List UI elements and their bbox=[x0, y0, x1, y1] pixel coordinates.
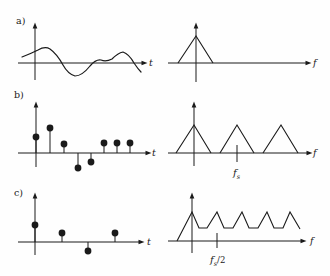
axis-arrow-right-icon bbox=[142, 61, 148, 66]
sample-dot bbox=[88, 159, 95, 166]
sample-dot bbox=[114, 140, 121, 147]
panel-label-c: c) bbox=[14, 187, 23, 198]
sampling-aliasing-figure: a)tfb)tffsc)tffs/2 bbox=[0, 0, 330, 276]
sample-dot bbox=[101, 140, 108, 147]
axis-arrow-right-icon bbox=[306, 61, 312, 66]
axis-arrow-up-icon bbox=[33, 23, 38, 29]
axis-arrow-right-icon bbox=[301, 239, 307, 244]
sample-dot bbox=[33, 134, 40, 141]
axis-arrow-up-icon bbox=[34, 102, 39, 108]
sample-dot bbox=[127, 140, 134, 147]
axis-label-f: f bbox=[312, 147, 318, 158]
sample-dot bbox=[75, 165, 82, 172]
c-right-aliased-spectrum: ffs/2 bbox=[168, 193, 315, 268]
axis-label-f: f bbox=[309, 235, 315, 246]
sample-dot bbox=[47, 125, 54, 132]
axis-arrow-up-icon bbox=[33, 193, 38, 199]
tick-label: fs bbox=[232, 167, 241, 181]
sample-dot bbox=[59, 230, 66, 237]
panel-label-b: b) bbox=[14, 89, 24, 100]
axis-arrow-right-icon bbox=[307, 151, 313, 156]
sample-dot bbox=[32, 222, 39, 229]
b-right-replicated-spectrum: ffs bbox=[168, 102, 318, 181]
axis-label-t: t bbox=[147, 236, 151, 247]
aliased-spectrum-curve bbox=[177, 212, 300, 241]
c-left-undersampled-signal: t bbox=[18, 193, 151, 256]
axis-arrow-right-icon bbox=[139, 240, 145, 245]
axis-arrow-up-icon bbox=[190, 193, 195, 199]
spectrum-triangle bbox=[263, 125, 298, 153]
sample-dot bbox=[112, 230, 119, 237]
sample-dot bbox=[85, 248, 92, 255]
tick-label-subscript: s bbox=[237, 173, 241, 181]
panel-label-a: a) bbox=[16, 15, 25, 26]
a-right-baseband-spectrum: f bbox=[168, 23, 318, 83]
sampling-diagram-svg: a)tfb)tffsc)tffs/2 bbox=[0, 0, 330, 276]
axis-arrow-right-icon bbox=[146, 151, 152, 156]
signal-curve bbox=[22, 48, 141, 76]
b-left-sampled-signal: t bbox=[18, 102, 156, 172]
axis-label-f: f bbox=[312, 57, 318, 68]
axis-arrow-up-icon bbox=[194, 23, 199, 29]
tick-label: fs/2 bbox=[209, 254, 225, 268]
axis-arrow-up-icon bbox=[192, 102, 197, 108]
tick-label-suffix: /2 bbox=[217, 255, 225, 265]
axis-label-t: t bbox=[152, 147, 156, 158]
axis-label-t: t bbox=[149, 57, 153, 68]
a-left-continuous-time-signal: t bbox=[18, 23, 153, 81]
sample-dot bbox=[61, 141, 68, 148]
